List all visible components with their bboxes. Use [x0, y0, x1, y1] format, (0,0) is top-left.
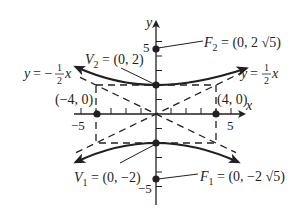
- svg-text:1: 1: [57, 62, 62, 73]
- tick-label-x-neg5: −5: [71, 118, 85, 133]
- y-axis-label: y: [144, 15, 153, 30]
- vertex-v2-point: [152, 81, 159, 88]
- point-left-label: (−4, 0): [55, 92, 94, 108]
- svg-text:x: x: [271, 66, 279, 81]
- svg-text:y: y: [22, 66, 31, 81]
- v1-leader-line: [120, 145, 154, 163]
- focus-f2-label: F2 = (0, 2 √5): [203, 35, 281, 53]
- svg-text:1: 1: [264, 62, 269, 73]
- vertex-v1-label: V1 = (0, −2): [74, 170, 141, 188]
- f1-leader-line: [158, 174, 198, 179]
- vertex-v2-label: V2 = (0, 2): [85, 52, 144, 70]
- svg-text:x: x: [64, 66, 72, 81]
- svg-text:y: y: [239, 66, 248, 81]
- tick-label-x-pos5: 5: [227, 118, 234, 133]
- point-right-label: (4, 0): [217, 92, 248, 108]
- f2-leader-line: [158, 41, 203, 48]
- hyperbola-diagram: y x −5 5 5 −5 (−4, 0) (4, 0) V2 = (0, 2)…: [0, 0, 302, 219]
- point-right: [212, 110, 219, 117]
- svg-text:=: =: [250, 66, 258, 81]
- focus-f1-label: F1 = (0, −2 √5): [199, 169, 285, 187]
- asymptote-positive-label: y = 1 2 x: [239, 62, 279, 86]
- svg-text:2: 2: [264, 75, 269, 86]
- svg-text:2: 2: [57, 75, 62, 86]
- focus-f2-point: [152, 45, 159, 52]
- asymptote-negative-label: y = − 1 2 x: [22, 62, 72, 86]
- svg-text:= −: = −: [33, 66, 52, 81]
- tick-label-y-pos5: 5: [143, 40, 150, 55]
- point-left: [93, 110, 100, 117]
